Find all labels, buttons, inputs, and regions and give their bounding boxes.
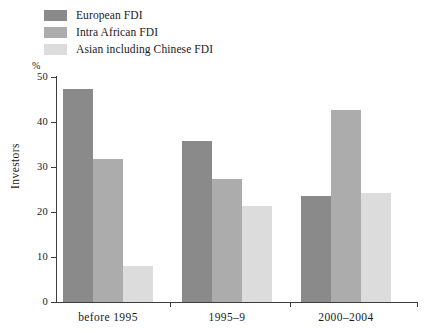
y-axis-tick (51, 257, 57, 258)
y-axis-line (56, 76, 57, 303)
x-axis-separator-tick (170, 302, 171, 307)
bar (63, 89, 93, 302)
bar (93, 159, 123, 302)
y-axis-tick (51, 212, 57, 213)
bar (182, 141, 212, 302)
y-axis-tick-label: 10 (26, 252, 48, 262)
y-axis-tick-label-wrap: 40 (22, 117, 48, 127)
bar (212, 179, 242, 302)
y-axis-tick (51, 122, 57, 123)
y-axis-tick-label-wrap: 0 (22, 297, 48, 307)
bar (301, 196, 331, 302)
bar (361, 193, 391, 302)
x-axis-separator-tick (290, 302, 291, 307)
y-axis-tick-label-wrap: 50 (22, 72, 48, 82)
y-axis-title: Investors (9, 121, 21, 211)
y-axis-tick (51, 77, 57, 78)
y-axis-tick (51, 302, 57, 303)
y-axis-tick-label: 50 (26, 72, 48, 82)
bar (331, 110, 361, 302)
y-axis-tick-label-wrap: 20 (22, 207, 48, 217)
x-axis-category-label: 1995–9 (167, 311, 287, 323)
y-axis-tick-label: 0 (26, 297, 48, 307)
y-axis-tick-label: 40 (26, 117, 48, 127)
y-axis-tick (51, 167, 57, 168)
x-axis-line (56, 302, 418, 303)
y-axis-tick-label-wrap: 30 (22, 162, 48, 172)
y-axis-tick-label: 30 (26, 162, 48, 172)
y-axis-tick-label-wrap: 10 (22, 252, 48, 262)
x-axis-category-label: 2000–2004 (286, 311, 406, 323)
bar (242, 206, 272, 302)
y-axis-unit-marker: % (32, 60, 41, 71)
x-axis-category-label: before 1995 (48, 311, 168, 323)
bar-chart-plot: % Investors 50403020100 before 19951995–… (0, 0, 424, 333)
bar (123, 266, 153, 302)
y-axis-tick-label: 20 (26, 207, 48, 217)
x-axis-end-tick (417, 302, 418, 307)
